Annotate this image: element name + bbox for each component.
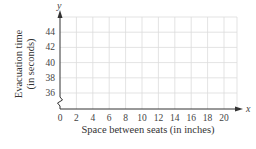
y-axis-break-icon	[58, 97, 63, 109]
axes	[58, 10, 244, 112]
y-tick-label: 42	[46, 42, 56, 52]
x-axis-label: Space between seats (in inches)	[82, 124, 215, 136]
y-axis-variable: y	[56, 0, 62, 11]
x-tick-label: 8	[123, 113, 128, 123]
x-tick-label: 20	[219, 113, 229, 123]
x-axis-variable: x	[245, 103, 251, 114]
y-tick-label: 36	[46, 88, 56, 98]
x-tick-labels: 02468101214161820	[58, 113, 229, 123]
x-tick-label: 2	[74, 113, 79, 123]
x-tick-label: 0	[58, 113, 63, 123]
grid-lines	[60, 17, 237, 109]
y-axis-arrow-icon	[58, 10, 63, 18]
y-tick-label: 40	[46, 58, 56, 68]
x-tick-label: 4	[90, 113, 95, 123]
x-tick-label: 18	[203, 113, 213, 123]
y-tick-label: 44	[46, 27, 56, 37]
x-tick-label: 16	[186, 113, 196, 123]
y-tick-label: 38	[46, 73, 56, 83]
x-axis-arrow-icon	[235, 107, 243, 112]
x-tick-label: 10	[137, 113, 147, 123]
chart-canvas: 02468101214161820 3638404244 x y Space b…	[0, 0, 256, 149]
y-axis-label-line2: (in seconds)	[25, 38, 37, 90]
x-tick-label: 12	[154, 113, 164, 123]
y-tick-labels: 3638404244	[46, 27, 56, 98]
x-tick-label: 14	[170, 113, 180, 123]
y-axis-label-line1: Evacuation time	[13, 29, 24, 98]
x-tick-label: 6	[107, 113, 112, 123]
